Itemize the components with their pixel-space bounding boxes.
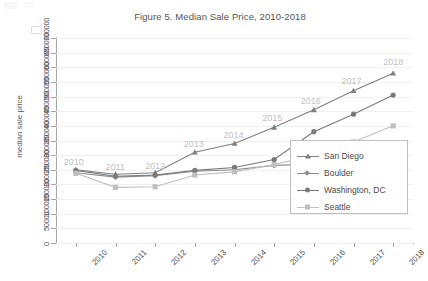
data-point-marker (153, 184, 158, 189)
legend-marker-square-icon (305, 205, 310, 210)
y-axis-tick (51, 111, 56, 112)
data-point-marker (271, 124, 277, 129)
y-axis-tick (51, 199, 56, 200)
data-point-marker (113, 174, 118, 179)
data-point-marker (351, 88, 357, 93)
legend-swatch-line (297, 190, 319, 191)
data-point-marker (113, 185, 118, 190)
x-axis-tick (235, 243, 236, 247)
data-point-marker (311, 129, 316, 134)
series-data-label: 2017 (342, 76, 362, 86)
series-data-label: 2016 (301, 96, 321, 106)
series-data-label: 2010 (64, 157, 84, 167)
data-point-marker (391, 93, 396, 98)
series-data-label: 2013 (184, 139, 204, 149)
data-point-marker (311, 107, 317, 112)
x-axis-tick (393, 243, 394, 247)
x-axis-tick-label: 2014 (249, 248, 268, 267)
chart-legend: San DiegoBoulderWashington, DCSeattle (290, 140, 408, 214)
x-axis-tick-label: 2017 (368, 248, 387, 267)
y-axis-tick-label: 700000 (42, 18, 51, 41)
legend-marker-triangle-icon (305, 154, 311, 159)
y-axis-tick (51, 38, 56, 39)
x-axis-tick-label: 2016 (328, 248, 347, 267)
x-axis-tick-label: 2012 (169, 248, 188, 267)
data-point-marker (272, 157, 277, 162)
legend-item-label: Washington, DC (324, 185, 386, 195)
data-point-marker (73, 171, 78, 176)
chart-figure: Figure 5. Median Sale Price, 2010-2018 m… (0, 0, 428, 281)
x-axis-tick (116, 243, 117, 247)
x-axis-tick (195, 243, 196, 247)
y-axis-tick (51, 141, 56, 142)
data-point-marker (192, 168, 197, 173)
x-axis-tick (354, 243, 355, 247)
data-point-marker (232, 169, 237, 174)
y-axis-tick (51, 170, 56, 171)
data-point-marker (390, 70, 396, 75)
x-axis-tick-label: 2013 (209, 248, 228, 267)
legend-marker-circle-icon (305, 188, 310, 193)
x-axis-tick-label: 2018 (407, 248, 426, 267)
x-axis-tick (314, 243, 315, 247)
legend-item-boulder[interactable]: Boulder (297, 167, 353, 179)
legend-item-label: Boulder (324, 168, 353, 178)
series-data-label: 2011 (106, 162, 125, 172)
series-data-label: 2015 (262, 113, 282, 123)
y-axis-tick-label: 0 (42, 242, 51, 246)
y-axis-tick (51, 126, 56, 127)
data-point-marker (153, 172, 158, 177)
legend-item-label: Seattle (324, 202, 350, 212)
legend-swatch-line (297, 156, 319, 157)
legend-item-san-diego[interactable]: San Diego (297, 150, 364, 162)
x-axis-tick (76, 243, 77, 247)
y-axis-tick (51, 53, 56, 54)
legend-swatch-line (297, 173, 319, 174)
y-axis-tick (51, 228, 56, 229)
x-axis-tick-label: 2010 (90, 248, 109, 267)
y-axis-tick (51, 243, 56, 244)
y-axis-tick-labels: 0500001000001500002000002500003000003500… (0, 0, 56, 281)
series-data-label: 2018 (383, 57, 403, 67)
data-point-marker (272, 162, 277, 167)
series-data-label: 2014 (224, 130, 244, 140)
data-point-marker (351, 112, 356, 117)
y-axis-tick (51, 67, 56, 68)
y-axis-tick (51, 184, 56, 185)
legend-swatch-line (297, 207, 319, 208)
x-axis-tick-label: 2015 (288, 248, 307, 267)
x-axis-tick (274, 243, 275, 247)
chart-title: Figure 5. Median Sale Price, 2010-2018 (60, 11, 380, 22)
x-axis-tick-label: 2011 (130, 248, 149, 267)
y-axis-tick (51, 82, 56, 83)
legend-item-washington-dc[interactable]: Washington, DC (297, 184, 386, 196)
y-axis-tick (51, 97, 56, 98)
x-axis-tick (155, 243, 156, 247)
y-axis-tick (51, 155, 56, 156)
legend-item-seattle[interactable]: Seattle (297, 201, 350, 213)
data-point-marker (192, 172, 197, 177)
data-point-marker (391, 123, 396, 128)
legend-item-label: San Diego (324, 151, 364, 161)
y-axis-tick (51, 214, 56, 215)
series-data-label: 2012 (145, 161, 165, 171)
legend-marker-diamond-icon (304, 170, 310, 176)
